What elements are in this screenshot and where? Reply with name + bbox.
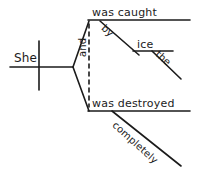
label-predicate-upper: was caught	[92, 7, 157, 18]
label-object-of-preposition: ice	[137, 39, 153, 50]
lower-branch-line	[73, 67, 89, 111]
label-conjunction: and	[78, 38, 88, 57]
diagram-canvas	[0, 0, 201, 173]
label-predicate-lower: was destroyed	[92, 98, 175, 109]
label-subject: She	[14, 52, 37, 64]
sentence-diagram: She was caught was destroyed and by ice …	[0, 0, 201, 173]
